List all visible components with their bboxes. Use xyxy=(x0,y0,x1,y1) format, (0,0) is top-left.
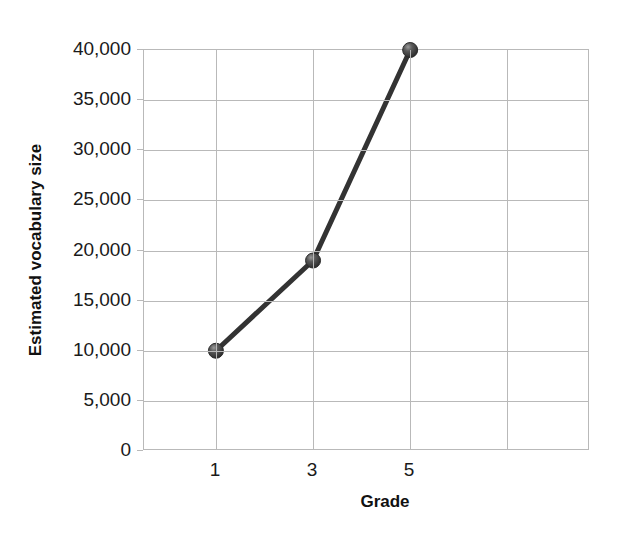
y-axis-tick xyxy=(137,149,143,150)
y-axis-title: Estimated vocabulary size xyxy=(26,130,46,370)
gridline-vertical xyxy=(313,50,314,449)
y-axis-tick xyxy=(137,300,143,301)
chart-figure: 05,00010,00015,00020,00025,00030,00035,0… xyxy=(0,0,621,536)
y-axis-tick-label: 35,000 xyxy=(11,88,131,110)
gridline-vertical xyxy=(507,50,508,449)
gridline-horizontal xyxy=(144,301,588,302)
y-axis-tick-label: 5,000 xyxy=(11,389,131,411)
gridline-horizontal xyxy=(144,251,588,252)
gridline-horizontal xyxy=(144,401,588,402)
y-axis-tick-label: 0 xyxy=(11,439,131,461)
y-axis-tick xyxy=(137,250,143,251)
y-axis-tick-label: 40,000 xyxy=(11,38,131,60)
x-axis-title: Grade xyxy=(285,492,485,512)
y-axis-tick-labels: 05,00010,00015,00020,00025,00030,00035,0… xyxy=(0,0,131,536)
y-axis-tick xyxy=(137,199,143,200)
gridline-horizontal xyxy=(144,351,588,352)
gridline-vertical xyxy=(216,50,217,449)
y-axis-tick xyxy=(137,450,143,451)
gridline-horizontal xyxy=(144,100,588,101)
x-axis-tick-label: 3 xyxy=(272,459,352,481)
y-axis-tick xyxy=(137,400,143,401)
y-axis-tick xyxy=(137,49,143,50)
y-axis-tick xyxy=(137,350,143,351)
x-axis-tick-label: 5 xyxy=(369,459,449,481)
plot-area xyxy=(143,49,589,450)
x-axis-tick-label: 1 xyxy=(175,459,255,481)
gridline-horizontal xyxy=(144,150,588,151)
gridline-horizontal xyxy=(144,200,588,201)
y-axis-tick xyxy=(137,99,143,100)
gridline-vertical xyxy=(410,50,411,449)
